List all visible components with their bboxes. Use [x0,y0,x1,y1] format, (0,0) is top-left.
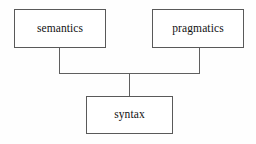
edge-semantics-to-junction [59,48,60,74]
diagram-canvas: semantics pragmatics syntax [0,0,256,144]
node-syntax[interactable]: syntax [86,96,173,134]
node-semantics-label: semantics [37,22,83,34]
edge-pragmatics-to-junction [199,48,200,74]
node-pragmatics-label: pragmatics [172,22,223,34]
node-syntax-label: syntax [114,109,145,121]
node-pragmatics[interactable]: pragmatics [152,9,244,48]
edge-junction-to-syntax [129,73,130,96]
node-semantics[interactable]: semantics [14,9,106,48]
